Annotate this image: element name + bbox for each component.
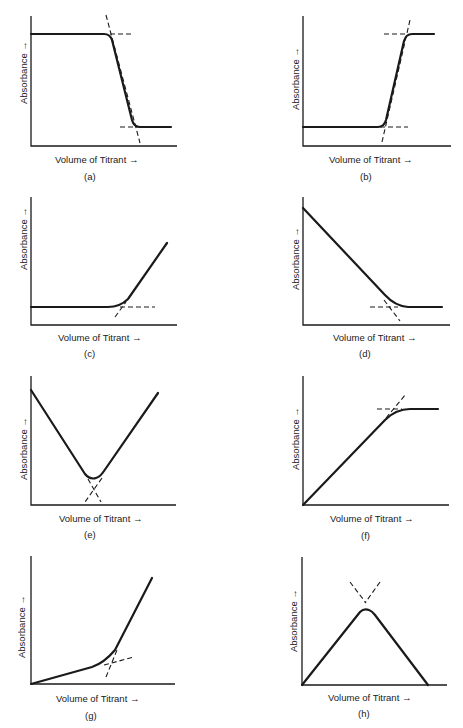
panel-d-extrapolation-fall	[384, 300, 400, 321]
panel-h-extrapolation-left	[350, 582, 366, 603]
panel-g-ylabel: Absorbance →	[16, 595, 27, 658]
panel-e-extrapolation-left	[88, 479, 101, 502]
panel-c-ylabel: Absorbance →	[18, 207, 29, 270]
panel-h-curve	[302, 609, 428, 685]
panel-c-caption: (c)	[84, 348, 95, 359]
panel-e-xlabel: Volume of Titrant →	[59, 513, 142, 524]
panel-f-curve	[303, 409, 438, 505]
panel-h-ylabel: Absorbance →	[288, 589, 299, 652]
panel-e-ylabel: Absorbance →	[18, 417, 29, 480]
panel-b-ylabel: Absorbance →	[290, 47, 301, 110]
panel-h-xlabel: Volume of Titrant →	[328, 692, 411, 703]
panel-h-axes	[302, 557, 447, 685]
panel-b-caption: (b)	[360, 171, 372, 182]
panel-e-curve	[31, 390, 158, 479]
panel-f-extrapolation-rise	[386, 394, 406, 418]
panel-f-axes	[303, 376, 449, 505]
panel-a-xlabel: Volume of Titrant →	[55, 154, 138, 165]
panel-c-xlabel: Volume of Titrant →	[58, 332, 141, 343]
panel-b-curve	[303, 34, 434, 127]
panel-g-xlabel: Volume of Titrant →	[56, 693, 139, 704]
panel-a-ylabel: Absorbance →	[18, 41, 29, 104]
panel-h-caption: (h)	[358, 708, 370, 719]
panel-a-caption: (a)	[84, 171, 96, 182]
panel-d-xlabel: Volume of Titrant →	[333, 332, 416, 343]
panel-a-curve	[31, 34, 171, 127]
panel-e-plot	[31, 376, 176, 505]
panel-f-xlabel: Volume of Titrant →	[330, 513, 413, 524]
panel-g-curve	[31, 578, 152, 684]
panel-h-plot	[302, 557, 447, 685]
panel-h-extrapolation-right	[365, 582, 380, 603]
panel-d-ylabel: Absorbance →	[290, 227, 301, 290]
panel-d-axes	[303, 197, 450, 325]
panel-g-caption: (g)	[85, 710, 97, 721]
panel-d-plot	[303, 197, 450, 325]
panel-b-plot	[303, 16, 451, 146]
panel-e-caption: (e)	[84, 529, 96, 540]
titration-curves-figure	[0, 0, 463, 728]
panel-f-plot	[303, 376, 449, 505]
panel-f-caption: (f)	[361, 530, 370, 541]
panel-a-plot	[31, 15, 177, 146]
panel-e-extrapolation-right	[85, 478, 102, 502]
panel-c-plot	[31, 197, 177, 325]
panel-d-caption: (d)	[359, 348, 371, 359]
panel-e-axes	[31, 376, 176, 505]
panel-g-plot	[31, 556, 175, 684]
panel-f-ylabel: Absorbance →	[290, 407, 301, 470]
panel-g-axes	[31, 556, 175, 684]
panel-c-curve	[31, 243, 167, 307]
panel-d-curve	[303, 208, 442, 307]
panel-b-xlabel: Volume of Titrant →	[329, 154, 412, 165]
